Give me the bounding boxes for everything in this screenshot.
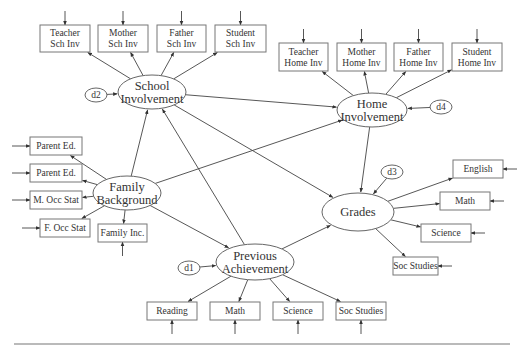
indicator-label: Reading: [156, 306, 188, 316]
indicator-label: Math: [225, 306, 245, 316]
disturbance-label: d2: [91, 90, 101, 100]
indicator-gsoc: Soc Studies: [393, 257, 438, 275]
disturbance-arrow-d2: [107, 94, 117, 95]
latent-label: Achievement: [222, 262, 289, 276]
disturbance-label: d4: [436, 102, 446, 112]
indicator-label: Parent Ed.: [36, 141, 76, 151]
indicator-label: Science: [283, 306, 313, 316]
disturbance-d4: d4: [430, 100, 452, 114]
latent-label: Previous: [233, 249, 277, 263]
indicator-pmath: Math: [210, 302, 260, 320]
loading-arrow-pmath: [239, 280, 248, 302]
loading-arrow-t_sch: [88, 53, 131, 79]
indicator-label: Student: [462, 47, 491, 57]
indicator-gmath: Math: [440, 192, 490, 210]
indicator-pe1: Parent Ed.: [30, 137, 82, 155]
loading-arrow-f_home: [386, 72, 406, 95]
indicator-label: Math: [455, 196, 475, 206]
indicator-read: Reading: [147, 302, 197, 320]
indicator-label: F. Occ Stat: [44, 223, 86, 233]
loading-arrow-gmath: [393, 204, 439, 209]
disturbance-arrow-d3: [373, 178, 386, 194]
indicator-f_sch: FatherSch Inv: [157, 25, 206, 52]
disturbance-label: d1: [184, 263, 194, 273]
latent-label: Family: [109, 180, 145, 194]
loading-arrow-gsoc: [376, 229, 406, 257]
indicator-s_home: StudentHome Inv: [452, 43, 502, 71]
indicator-label: M. Occ Stat: [33, 195, 79, 205]
loading-arrow-gsci: [391, 220, 421, 227]
loading-arrow-pe2: [83, 180, 98, 184]
loading-arrow-focc: [82, 206, 105, 219]
latent-family: FamilyBackground: [93, 176, 161, 210]
path-arrow-school-to-home: [186, 95, 337, 107]
nodes-layer: d2d4d3d1TeacherSch InvMotherSch InvFathe…: [30, 25, 503, 320]
indicator-label: Teacher: [289, 47, 320, 57]
disturbance-label: d3: [387, 167, 397, 177]
latent-label: Background: [96, 193, 158, 207]
latent-label: Involvement: [340, 110, 404, 124]
path-arrow-family-to-prev: [150, 205, 228, 247]
indicator-eng: English: [453, 160, 503, 178]
indicator-label: Parent Ed.: [36, 168, 76, 178]
indicator-t_home: TeacherHome Inv: [279, 43, 328, 71]
disturbance-arrow-d4: [408, 107, 430, 108]
path-arrow-school-to-grades: [174, 105, 333, 197]
path-arrow-family-to-school: [131, 110, 147, 176]
loading-arrow-t_home: [322, 72, 353, 96]
latent-label: Involvement: [120, 92, 184, 106]
disturbance-arrow-d1: [200, 266, 216, 267]
loading-arrow-mocc: [83, 196, 94, 197]
diagram-canvas: d2d4d3d1TeacherSch InvMotherSch InvFathe…: [0, 0, 525, 350]
disturbance-d1: d1: [178, 261, 200, 275]
loading-arrow-s_sch: [174, 53, 218, 79]
indicator-f_home: FatherHome Inv: [394, 43, 443, 71]
indicator-label: Soc Studies: [393, 261, 438, 271]
latent-label: School: [135, 79, 170, 93]
path-arrow-prev-to-grades: [282, 225, 331, 249]
indicator-label: Sch Inv: [167, 39, 197, 49]
loading-arrow-m_sch: [131, 53, 144, 76]
indicator-label: Mother: [109, 28, 138, 38]
indicator-pe2: Parent Ed.: [30, 164, 82, 182]
indicator-t_sch: TeacherSch Inv: [40, 25, 90, 52]
sem-path-diagram: d2d4d3d1TeacherSch InvMotherSch InvFathe…: [0, 0, 525, 350]
indicator-psci: Science: [273, 302, 323, 320]
latent-grades: Grades: [322, 193, 394, 231]
latent-label: Home: [357, 97, 388, 111]
indicator-label: English: [463, 164, 492, 174]
indicator-finc: Family Inc.: [98, 224, 147, 242]
disturbance-d2: d2: [85, 88, 107, 102]
indicator-label: Teacher: [50, 28, 81, 38]
indicator-label: Father: [406, 47, 431, 57]
latent-label: Grades: [340, 205, 376, 219]
indicator-label: Mother: [348, 47, 377, 57]
indicator-label: Home Inv: [399, 58, 438, 68]
loading-arrow-psci: [270, 279, 290, 302]
latent-school: SchoolInvolvement: [118, 75, 186, 109]
indicator-label: Sch Inv: [226, 39, 256, 49]
indicator-label: Science: [431, 228, 461, 238]
disturbance-d3: d3: [381, 165, 403, 179]
indicator-label: Sch Inv: [50, 39, 80, 49]
indicator-label: Soc Studies: [339, 306, 384, 316]
loading-arrow-psoc: [283, 275, 341, 302]
indicator-label: Father: [169, 28, 194, 38]
latent-prev: PreviousAchievement: [216, 244, 294, 280]
path-arrow-family-to-home: [155, 120, 342, 183]
loading-arrow-m_home: [364, 72, 368, 94]
loading-arrow-read: [188, 276, 231, 301]
indicator-focc: F. Occ Stat: [40, 219, 90, 237]
indicator-mocc: M. Occ Stat: [30, 191, 82, 209]
indicator-label: Sch Inv: [108, 39, 138, 49]
indicator-label: Home Inv: [458, 58, 497, 68]
indicator-psoc: Soc Studies: [336, 302, 386, 320]
indicator-gsci: Science: [421, 224, 471, 242]
loading-arrow-finc: [124, 210, 126, 224]
indicator-m_home: MotherHome Inv: [337, 43, 386, 71]
latent-home: HomeInvolvement: [337, 93, 407, 127]
indicator-s_sch: StudentSch Inv: [215, 25, 266, 52]
path-arrow-home-to-grades: [361, 127, 370, 192]
indicator-label: Family Inc.: [101, 228, 145, 238]
loading-arrow-f_sch: [161, 53, 174, 76]
